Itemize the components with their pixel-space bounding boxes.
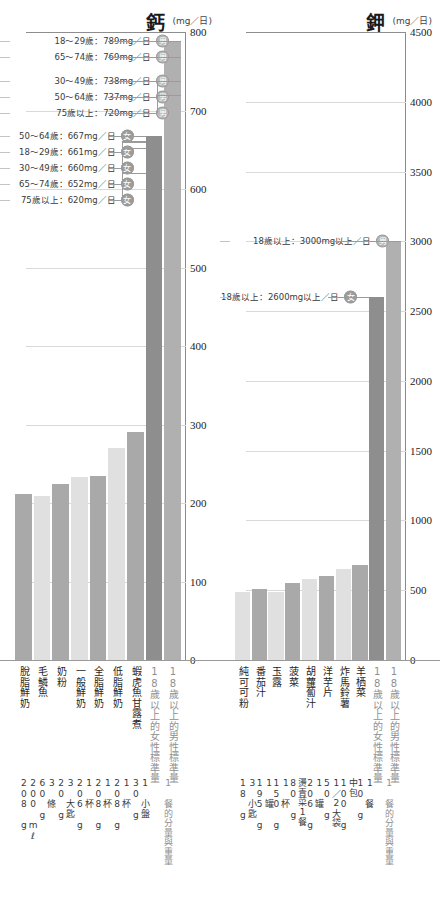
y-axis-tick-label: 500 — [190, 262, 207, 273]
chart-title-row-potassium: 鉀 (mg／日) — [220, 6, 440, 32]
leader-stub — [0, 113, 10, 114]
y-axis-tick-label: 600 — [190, 184, 207, 195]
data-bar — [108, 448, 125, 660]
x-axis-label: 一般鮮奶 — [74, 666, 84, 708]
data-bar — [302, 579, 317, 660]
leader-line — [157, 81, 181, 82]
threshold-annotation-label: 75歲以上：620mg／日 — [21, 196, 116, 205]
data-bar — [235, 592, 250, 660]
threshold-annotation: 65～74歲：652mg／日女 — [0, 177, 146, 191]
leader-stub — [0, 41, 10, 42]
y-axis-tick-label: 3500 — [410, 166, 432, 177]
leader-line — [108, 200, 122, 201]
leader-line-vertical — [122, 173, 123, 200]
y-axis-tick-label: 2000 — [410, 375, 432, 386]
serving-size-label: 3 條 60 g — [37, 778, 56, 820]
data-bar — [34, 496, 51, 660]
y-axis-tick-label: 4000 — [410, 96, 432, 107]
x-axis-label: 胡蘿蔔汁 — [304, 666, 314, 708]
y-axis-tick-label: 2500 — [410, 306, 432, 317]
y-axis-tick-label: 100 — [190, 576, 207, 587]
bar-group-calcium — [0, 32, 186, 660]
x-axis-label: 奶粉 — [55, 666, 65, 687]
x-axis-label: 低脂鮮奶 — [111, 666, 121, 708]
reference-bar — [386, 241, 401, 660]
x-axis-label: 18歲以上的男性標準量 — [167, 666, 177, 784]
serving-sizes-calcium: 200 mℓ 208 g3 條 60 g3 大匙 20 g1 杯 206 g1 … — [0, 778, 220, 903]
leader-line — [108, 136, 146, 137]
leader-stub — [0, 184, 10, 185]
x-axis-label: 洋芋片 — [321, 666, 331, 698]
y-axis-tick-label: 500 — [410, 585, 427, 596]
plot-area-potassium: 450040003500300025002000150010005000 18歲… — [220, 32, 440, 660]
chart-panel-calcium: 鈣 (mg／日) 8007006005004003002001000 18～29… — [0, 0, 220, 903]
data-bar — [319, 576, 334, 660]
leader-line — [328, 241, 401, 242]
leader-line-vertical — [157, 95, 158, 113]
reference-bar — [146, 136, 163, 660]
data-bar — [15, 494, 32, 660]
leader-line — [122, 148, 146, 149]
data-bar — [268, 592, 283, 660]
threshold-annotation-label: 65～74歲：652mg／日 — [19, 180, 116, 189]
leader-line — [108, 168, 122, 169]
serving-size-label: 200 mℓ 208 g — [18, 778, 37, 841]
leader-line — [108, 57, 181, 58]
x-axis-label: 18歲以上的男性標準量 — [388, 666, 398, 784]
leader-line — [122, 142, 146, 143]
serving-size-label: 1 小盤 30 g — [130, 778, 149, 820]
x-axis-label: 脫脂鮮奶 — [18, 666, 28, 708]
data-bar — [127, 432, 144, 660]
leader-stub — [0, 97, 10, 98]
x-axis-label: 菠菜 — [287, 666, 297, 687]
serving-note: 1 餐的分量與重量 — [163, 778, 172, 866]
x-axis-label: 18歲以上的女性標準量 — [371, 666, 381, 784]
y-axis-tick-label: 1000 — [410, 515, 432, 526]
x-axis-label: 純可可粉 — [237, 666, 247, 708]
x-axis-label: 玉露 — [271, 666, 281, 687]
plot-area-calcium: 8007006005004003002001000 18～29歲：789mg／日… — [0, 32, 220, 660]
data-bar — [52, 484, 69, 660]
threshold-annotation-label: 18～29歲：661mg／日 — [19, 148, 116, 157]
data-bar — [336, 569, 351, 660]
reference-bar — [164, 41, 181, 660]
threshold-annotation-label: 18歲以上：2600mg以上／日 — [221, 293, 339, 302]
y-axis-tick-label: 4500 — [410, 27, 432, 38]
axis-baseline-calcium — [0, 660, 220, 661]
reference-bar — [369, 297, 384, 660]
y-axis-tick-label: 400 — [190, 341, 207, 352]
serving-note: 1 餐的分量與重量 — [384, 778, 393, 866]
data-bar — [90, 476, 107, 660]
leader-stub — [220, 241, 230, 242]
y-axis-tick-label: 800 — [190, 27, 207, 38]
bar-group-potassium — [220, 32, 406, 660]
x-axis-label: 全脂鮮奶 — [93, 666, 103, 708]
leader-line — [328, 297, 369, 298]
threshold-annotation: 75歲以上：620mg／日女 — [0, 193, 146, 207]
serving-size-label: 1 杯 206 g — [74, 778, 93, 831]
leader-stub — [0, 200, 10, 201]
leader-line — [108, 152, 122, 153]
leader-line — [108, 41, 181, 42]
leader-stub — [0, 81, 10, 82]
y-axis-tick-label: 700 — [190, 105, 207, 116]
chart-title-row-calcium: 鈣 (mg／日) — [0, 6, 220, 32]
serving-size-label: 1 杯 208 g — [93, 778, 112, 831]
leader-line — [108, 113, 157, 114]
serving-size-label: 1 餐 10 g — [355, 778, 374, 820]
serving-size-label: 1 杯 208 g — [112, 778, 131, 831]
axis-baseline-potassium — [220, 660, 440, 661]
leader-line — [108, 184, 122, 185]
data-bar — [252, 589, 267, 660]
leader-stub — [0, 57, 10, 58]
y-axis-tick-label: 1500 — [410, 445, 432, 456]
leader-stub — [0, 168, 10, 169]
leader-line — [122, 173, 146, 174]
serving-size-label: 3 大匙 20 g — [56, 778, 75, 820]
x-axis-labels-potassium: 純可可粉番茄汁玉露菠菜胡蘿蔔汁洋芋片炸馬鈴薯羊栖菜18歲以上的女性標準量18歲以… — [220, 666, 440, 776]
y-axis-tick-label: 200 — [190, 498, 207, 509]
threshold-annotation-label: 50～64歲：667mg／日 — [19, 132, 116, 141]
x-axis-label: 炸馬鈴薯 — [338, 666, 348, 708]
data-bar — [285, 583, 300, 660]
serving-sizes-potassium: 3 小匙 18 g1 罐 195 g1 杯 150 g燙青菜1餐 80 g1 罐… — [220, 778, 440, 903]
